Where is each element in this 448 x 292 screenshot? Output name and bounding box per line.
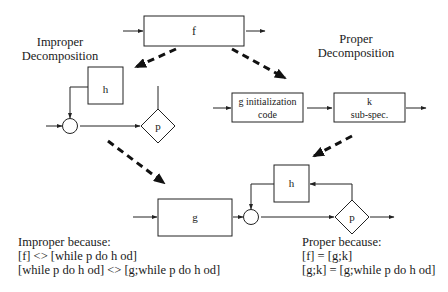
top-f-block: f — [123, 16, 265, 46]
improper-because-note: Improper because: [f] <> [while p do h o… — [18, 235, 220, 277]
g-box-label: g — [192, 211, 198, 223]
dashed-arrow-proper-to-loop — [314, 136, 352, 156]
k-label-line1: k — [367, 96, 372, 107]
proper-because-note: Proper because: [f] = [g;k] [g;k] = [g;w… — [302, 235, 435, 277]
loop-junction-circle — [244, 210, 259, 225]
proper-title-line1: Proper — [339, 32, 373, 46]
bottom-composition: g h p — [133, 165, 394, 236]
k-label-line2: sub-spec. — [351, 109, 389, 120]
g-init-label-line1: g initialization — [238, 96, 296, 107]
proper-note-line1: [f] = [g;k] — [302, 249, 435, 263]
improper-title-line2: Decomposition — [22, 49, 99, 63]
dashed-arrow-improper-to-g — [108, 141, 164, 183]
improper-h-feedback-line — [70, 87, 88, 118]
improper-title-line1: Improper — [37, 35, 84, 49]
improper-junction-circle — [63, 119, 78, 134]
proper-title-line2: Decomposition — [318, 46, 395, 60]
improper-h-label: h — [103, 83, 109, 95]
g-init-label-line2: code — [258, 109, 277, 120]
proper-decomposition: Proper Decomposition g initialization co… — [213, 32, 426, 122]
proper-note-line2: [g;k] = [g;while p do h od] — [302, 263, 435, 277]
proper-note-title: Proper because: — [302, 235, 435, 249]
improper-note-line2: [while p do h od] <> [g;while p do h od] — [18, 263, 220, 277]
f-box-label: f — [192, 24, 196, 38]
improper-note-title: Improper because: — [18, 235, 220, 249]
h-to-junction-feedback — [251, 184, 274, 209]
decision-to-h-feedback — [310, 184, 352, 200]
improper-decision-label: p — [155, 120, 161, 132]
loop-h-label: h — [289, 177, 295, 189]
loop-decision-label: p — [349, 211, 355, 223]
dashed-arrow-to-improper — [136, 49, 176, 67]
improper-decomposition: Improper Decomposition h p — [22, 35, 175, 143]
improper-note-line1: [f] <> [while p do h od] — [18, 249, 220, 263]
dashed-arrow-to-proper — [232, 49, 285, 78]
